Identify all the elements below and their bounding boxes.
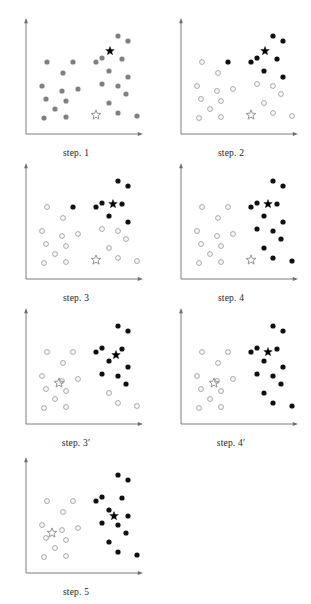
data-point-cluster-black: [270, 33, 275, 38]
data-point-cluster-black: [254, 55, 259, 60]
data-point-cluster-hollow: [197, 261, 202, 266]
data-point-cluster-hollow: [199, 97, 204, 102]
y-axis-arrowhead: [179, 308, 183, 313]
data-point-cluster-black: [99, 345, 104, 350]
centroid-star-hollow: [91, 255, 101, 264]
panel-step-3: step. 3: [0, 149, 152, 297]
data-point-cluster-hollow: [76, 377, 81, 382]
panel-step-5: step. 5: [0, 443, 152, 591]
data-point-cluster-hollow: [200, 205, 205, 210]
data-point-cluster-hollow: [53, 546, 58, 551]
data-point-cluster-black: [289, 258, 294, 263]
data-point-cluster-hollow: [64, 389, 69, 394]
data-point-cluster-black: [123, 530, 128, 535]
centroid-star-black: [110, 512, 119, 520]
data-point-cluster-black: [106, 507, 111, 512]
data-point-unlabeled: [63, 98, 68, 103]
y-axis-arrowhead: [24, 457, 28, 462]
data-point-cluster-black: [248, 59, 253, 64]
data-point-cluster-hollow: [208, 252, 213, 257]
data-point-cluster-black: [280, 364, 285, 369]
centroid-star-hollow: [246, 255, 256, 264]
data-point-cluster-black: [119, 346, 124, 351]
data-point-cluster-hollow: [279, 92, 284, 97]
data-point-cluster-black: [123, 381, 128, 386]
panel-step-3-prime: step. 3′: [0, 294, 152, 442]
data-point-cluster-black: [125, 477, 130, 482]
data-point-cluster-black: [115, 323, 120, 328]
panel-step-1: step. 1: [0, 4, 152, 152]
data-point-cluster-hollow: [197, 406, 202, 411]
x-axis-arrowhead: [293, 132, 298, 136]
scatter-points: [39, 33, 139, 120]
data-point-cluster-black: [270, 178, 275, 183]
data-point-unlabeled: [119, 56, 124, 61]
data-point-cluster-black: [270, 373, 275, 378]
data-point-cluster-hollow: [231, 232, 236, 237]
data-point-cluster-hollow: [219, 260, 224, 265]
data-point-cluster-hollow: [216, 361, 221, 366]
data-point-cluster-hollow: [40, 374, 45, 379]
data-point-cluster-hollow: [216, 71, 221, 76]
kmeans-steps-figure: step. 1step. 2step. 3step. 4step. 3′step…: [0, 0, 311, 604]
data-point-unlabeled: [125, 74, 130, 79]
data-point-unlabeled: [60, 70, 65, 75]
data-point-cluster-hollow: [219, 389, 224, 394]
panel-step-4-prime: step. 4′: [155, 294, 307, 442]
data-point-cluster-hollow: [61, 510, 66, 515]
data-point-unlabeled: [106, 100, 111, 105]
data-point-cluster-hollow: [44, 387, 49, 392]
y-axis-arrowhead: [24, 18, 28, 23]
data-point-cluster-hollow: [195, 229, 200, 234]
data-point-cluster-hollow: [42, 555, 47, 560]
data-point-cluster-hollow: [200, 60, 205, 65]
data-point-cluster-black: [261, 68, 266, 73]
data-point-cluster-hollow: [71, 350, 76, 355]
data-point-cluster-hollow: [197, 116, 202, 121]
data-point-cluster-black: [115, 472, 120, 477]
data-point-cluster-hollow: [71, 499, 76, 504]
data-point-cluster-black: [119, 201, 124, 206]
scatter-points: [195, 323, 295, 410]
panel-caption-prime: ′: [243, 438, 245, 448]
data-point-unlabeled: [43, 96, 48, 101]
data-point-cluster-hollow: [61, 216, 66, 221]
y-axis-arrowhead: [24, 163, 28, 168]
x-axis-arrowhead: [138, 422, 143, 426]
data-point-unlabeled: [106, 68, 111, 73]
data-point-cluster-hollow: [64, 554, 69, 559]
centroid-star-hollow: [91, 110, 101, 119]
data-point-unlabeled: [93, 59, 98, 64]
centroid-star-black: [109, 200, 118, 208]
data-point-cluster-black: [254, 200, 259, 205]
data-point-cluster-black: [261, 358, 266, 363]
data-point-cluster-hollow: [200, 350, 205, 355]
data-point-unlabeled: [59, 88, 64, 93]
centroid-star-black: [264, 200, 273, 208]
data-point-cluster-black: [115, 549, 120, 554]
data-point-cluster-hollow: [208, 107, 213, 112]
data-point-cluster-black: [134, 552, 139, 557]
data-point-cluster-hollow: [64, 405, 69, 410]
data-point-cluster-black: [270, 228, 275, 233]
y-axis-arrowhead: [179, 163, 183, 168]
data-point-cluster-black: [254, 371, 259, 376]
data-point-cluster-hollow: [219, 99, 224, 104]
data-point-unlabeled: [125, 38, 130, 43]
data-point-cluster-hollow: [64, 260, 69, 265]
data-point-cluster-black: [280, 183, 285, 188]
data-point-cluster-black: [125, 183, 130, 188]
data-point-cluster-hollow: [53, 397, 58, 402]
data-point-cluster-hollow: [195, 374, 200, 379]
data-point-cluster-black: [270, 323, 275, 328]
data-point-cluster-hollow: [231, 87, 236, 92]
data-point-cluster-black: [99, 371, 104, 376]
data-point-unlabeled: [115, 33, 120, 38]
data-point-cluster-hollow: [219, 244, 224, 249]
data-point-cluster-black: [270, 255, 275, 260]
data-point-cluster-black: [125, 219, 130, 224]
data-point-cluster-black: [115, 522, 120, 527]
centroid-star-black: [106, 47, 115, 55]
data-point-cluster-hollow: [53, 252, 58, 257]
data-point-cluster-black: [99, 494, 104, 499]
